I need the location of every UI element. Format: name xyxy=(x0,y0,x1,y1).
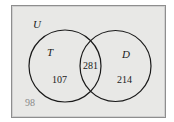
universe-label: U xyxy=(33,19,41,30)
set-t-label: T xyxy=(47,47,53,58)
d-only-count: 214 xyxy=(117,75,132,85)
set-d-label: D xyxy=(122,49,130,60)
outside-count: 98 xyxy=(25,98,35,108)
intersection-count: 281 xyxy=(83,61,98,71)
t-only-count: 107 xyxy=(52,75,67,85)
